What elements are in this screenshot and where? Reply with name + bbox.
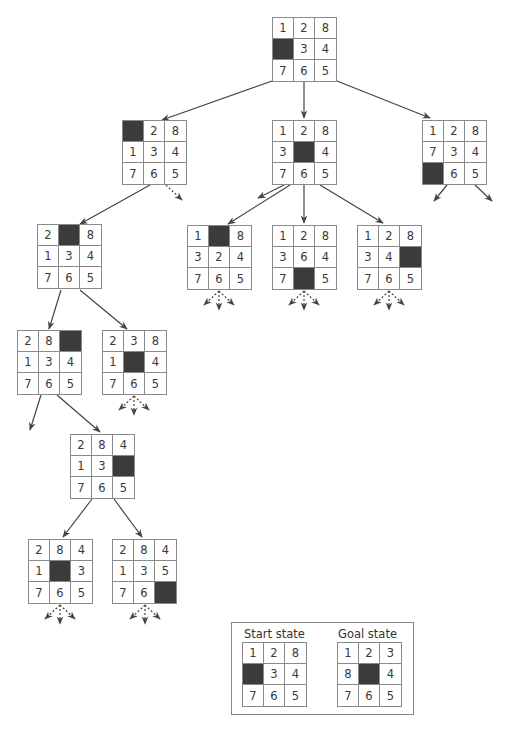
tile: 3 [294,39,315,60]
tile: 6 [124,373,145,394]
tile: 8 [230,226,251,247]
edge-arrow [337,81,430,118]
goal-state-label: Goal state [338,627,397,641]
puzzle-state-l6b: 28413576 [112,539,177,604]
edge-arrow [374,291,389,305]
tile: 2 [29,540,50,561]
tile: 4 [465,142,486,163]
tile: 4 [285,664,306,685]
tile: 1 [123,142,144,163]
start-state-board: 12834765 [242,642,307,707]
tile: 7 [273,268,294,289]
edge-arrow [162,81,272,120]
edge-arrow [204,291,219,305]
tile: 2 [38,225,59,246]
tile: 2 [209,247,230,268]
tile: 5 [315,60,336,81]
tile: 6 [144,163,165,184]
edge-arrow [80,185,150,224]
tile: 4 [315,39,336,60]
edge-arrow [166,185,182,200]
puzzle-state-l5a: 28413765 [70,434,135,499]
tile: 4 [80,246,101,267]
blank-tile [60,331,81,352]
tile: 1 [18,352,39,373]
tile: 3 [92,456,113,477]
tile: 2 [18,331,39,352]
tile: 2 [113,540,134,561]
tile: 4 [165,142,186,163]
edge-arrow [114,499,142,537]
tile: 8 [39,331,60,352]
tile: 6 [294,163,315,184]
tile: 8 [92,435,113,456]
puzzle-state-l2a: 28134765 [122,120,187,185]
tile: 3 [358,247,379,268]
start-state-label: Start state [244,627,305,641]
puzzle-state-l3c: 12836475 [272,225,337,290]
tile: 3 [264,664,285,685]
tile: 5 [380,685,401,706]
blank-tile [294,142,315,163]
edge-arrow [304,291,319,305]
blank-tile [423,163,444,184]
tile: 6 [59,267,80,288]
tile: 8 [315,226,336,247]
blank-tile [123,121,144,142]
tile: 1 [38,246,59,267]
tile: 2 [294,18,315,39]
tile: 3 [273,247,294,268]
tile: 4 [315,142,336,163]
tile: 1 [29,561,50,582]
tile: 2 [359,643,380,664]
blank-tile [113,456,134,477]
tile: 6 [92,477,113,498]
tile: 8 [315,121,336,142]
tile: 3 [444,142,465,163]
tile: 2 [264,643,285,664]
blank-tile [359,664,380,685]
tile: 5 [285,685,306,706]
edge-arrow [289,291,304,305]
blank-tile [294,268,315,289]
tile: 4 [230,247,251,268]
puzzle-state-l6a: 28413765 [28,539,93,604]
edge-arrow [219,291,234,305]
edge-arrow [134,396,149,410]
tile: 7 [358,268,379,289]
puzzle-state-l3a: 28134765 [37,224,102,289]
tile: 7 [38,267,59,288]
tile: 2 [294,226,315,247]
tile: 6 [39,373,60,394]
tile: 4 [113,435,134,456]
tile: 7 [123,163,144,184]
tile: 7 [243,685,264,706]
puzzle-state-l2c: 12873465 [422,120,487,185]
tile: 3 [39,352,60,373]
tile: 8 [50,540,71,561]
tile: 7 [188,268,209,289]
tile: 2 [294,121,315,142]
tile: 4 [71,540,92,561]
tile: 6 [444,163,465,184]
tile: 3 [71,561,92,582]
tile: 5 [113,477,134,498]
edge-arrow [49,290,61,329]
tile: 1 [273,18,294,39]
tile: 5 [145,373,166,394]
tile: 6 [379,268,400,289]
tile: 8 [465,121,486,142]
tile: 3 [273,142,294,163]
edge-arrow [320,185,383,223]
edge-arrow [60,605,75,619]
blank-tile [400,247,421,268]
tile: 5 [165,163,186,184]
tile: 8 [165,121,186,142]
tile: 2 [379,226,400,247]
tile: 6 [134,582,155,603]
blank-tile [59,225,80,246]
tile: 5 [465,163,486,184]
puzzle-state-l3b: 18324765 [187,225,252,290]
tile: 6 [264,685,285,706]
tile: 4 [155,540,176,561]
